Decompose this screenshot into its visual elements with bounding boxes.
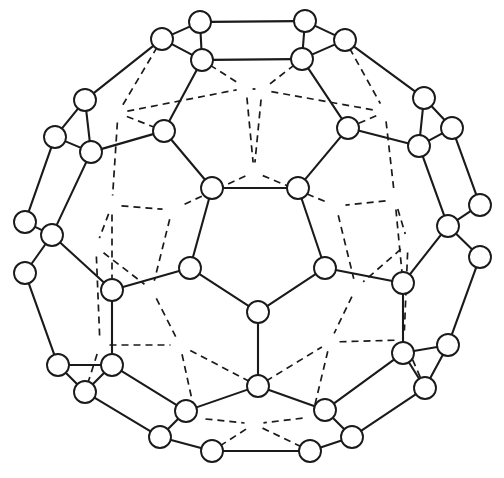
hidden-edge-59-39 [263,428,302,447]
graph-vertex-19 [437,215,459,237]
graph-vertex-8 [44,126,66,148]
visible-edge-5-13 [307,67,342,120]
visible-edge-3-5 [311,44,337,55]
visible-edge-36-38 [169,439,203,448]
graph-vertex-11 [408,135,430,157]
hidden-edge-41-45 [247,97,253,162]
visible-edge-35-37 [332,417,346,431]
graph-vertex-30 [437,334,459,356]
visible-edge-18-20 [31,243,47,266]
visible-edge-33-34 [195,389,249,408]
graph-vertex-14 [201,177,223,199]
graph-vertex-9 [441,117,463,139]
hidden-edge-54-56 [340,340,395,341]
visible-edge-0-2 [171,26,192,35]
graph-vertex-35 [314,399,336,421]
visible-edge-28-34 [120,370,178,406]
visible-edge-15-23 [301,197,322,259]
graph-vertex-21 [469,246,491,268]
graph-vertex-26 [247,301,269,323]
hidden-edge-51-55 [156,298,175,336]
graph-vertex-27 [47,354,69,376]
visible-edge-17-19 [456,210,472,221]
visible-edge-9-17 [455,137,477,196]
figure-root: Truncated icosahedron (buckminsterfuller… [0,0,504,478]
visible-edge-13-15 [304,135,342,180]
visible-edge-37-39 [319,440,343,448]
graph-vertex-5 [291,48,313,70]
visible-edge-4-5 [212,59,293,60]
visible-edge-30-32 [429,353,443,379]
graph-vertex-34 [175,400,197,422]
visible-edge-23-25 [334,270,393,281]
visible-edge-33-35 [267,389,316,407]
graph-vertex-25 [392,272,414,294]
visible-edge-1-3 [314,25,337,36]
graph-vertex-23 [314,257,336,279]
visible-edge-14-22 [193,197,210,259]
hidden-edge-58-59 [263,418,302,423]
hidden-edge-5-42 [270,65,295,84]
hidden-edge-42-45 [255,99,261,162]
visible-edge-0-1 [210,21,296,22]
visible-edge-0-4 [201,31,202,50]
visible-edge-11-13 [357,130,410,143]
visible-edge-22-24 [121,271,181,288]
visible-edge-10-12 [100,134,155,150]
visible-edge-10-18 [56,161,87,227]
graph-vertex-31 [74,381,96,403]
graph-vertex-1 [294,10,316,32]
visible-edge-32-37 [360,393,417,431]
graph-vertex-2 [151,28,173,50]
graph-vertex-15 [287,177,309,199]
graph-vertex-32 [414,377,436,399]
visible-edge-9-11 [427,133,443,142]
hidden-edge-40-12 [127,116,155,127]
hidden-edge-44-49 [99,214,108,238]
visible-edge-23-26 [266,273,317,307]
hidden-edge-46-25 [396,209,402,273]
hidden-edge-53-31 [88,354,97,383]
vertices-group [14,10,491,462]
graph-vertex-16 [14,211,36,233]
visible-edge-34-36 [167,418,180,431]
hidden-edge-52-56 [334,297,352,334]
visible-edge-28-31 [92,372,106,386]
hidden-edge-49-53 [96,256,99,335]
visible-edge-8-16 [28,146,52,213]
hidden-edge-48-52 [338,215,354,279]
graph-vertex-20 [14,262,36,284]
visible-edge-22-26 [198,273,250,307]
graph-vertex-39 [299,440,321,462]
graph-vertex-33 [247,375,269,397]
visible-edge-2-6 [92,45,154,94]
visible-edge-12-14 [170,138,206,180]
graph-vertex-4 [191,49,213,71]
hidden-edge-43-46 [386,121,394,190]
visible-edge-18-24 [59,241,105,283]
visible-edge-21-30 [451,266,477,336]
visible-edge-1-5 [303,30,305,49]
graph-vertex-22 [179,257,201,279]
graph-vertex-38 [201,440,223,462]
visible-edge-7-9 [430,105,445,121]
hidden-edge-33-56 [266,347,322,381]
graph-vertex-12 [153,120,175,142]
graph-vertex-24 [101,279,123,301]
visible-edge-6-10 [86,109,90,142]
visible-edge-8-10 [64,141,82,149]
hidden-edge-40-44 [113,122,118,195]
hidden-edge-33-55 [188,349,249,381]
visible-edge-2-4 [170,43,193,55]
hidden-edge-42-43 [271,92,375,111]
graph-vertex-18 [41,224,63,246]
graph-vertex-3 [334,29,356,51]
visible-edge-4-12 [168,68,197,122]
visible-edge-20-27 [28,282,55,356]
graph-vertex-17 [469,194,491,216]
visible-edge-29-30 [412,347,438,352]
graph-vertex-6 [74,89,96,111]
graph-vertex-29 [392,342,414,364]
hidden-edge-57-59 [205,419,244,423]
visible-edge-6-8 [61,107,79,129]
